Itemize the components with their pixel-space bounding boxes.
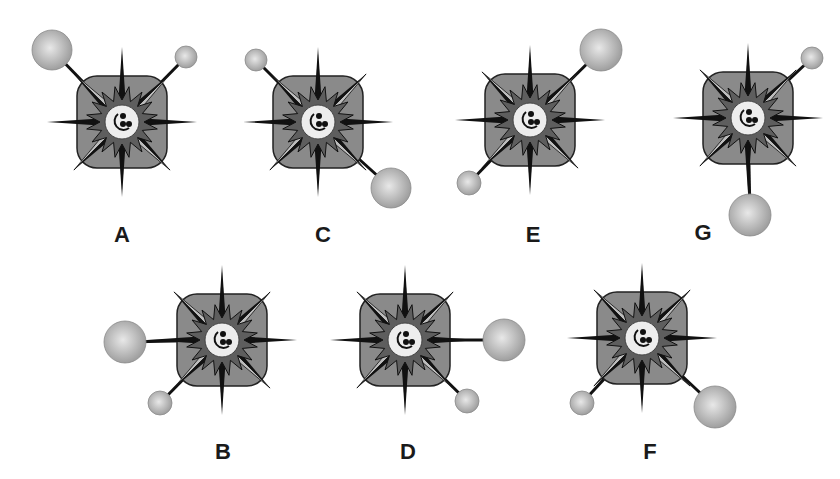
dot (126, 121, 132, 127)
figure-F (567, 263, 736, 428)
figure-label: F (643, 441, 656, 463)
figure-G (673, 43, 823, 236)
dot (746, 109, 752, 115)
large-ball (371, 168, 411, 208)
dot (534, 119, 540, 125)
dot (528, 119, 534, 125)
dot (316, 121, 322, 127)
dot (640, 337, 646, 343)
dot (226, 339, 232, 345)
figure-C (243, 47, 411, 208)
small-ball (570, 391, 594, 415)
large-ball (729, 194, 771, 236)
figure-label: E (526, 224, 541, 246)
dot (220, 339, 226, 345)
large-ball (580, 29, 622, 71)
dot (746, 117, 752, 123)
dot (120, 121, 126, 127)
dot (528, 111, 534, 117)
figure-E (455, 29, 622, 195)
figure-B (104, 265, 297, 415)
dot (403, 331, 409, 337)
figure-label: A (114, 224, 130, 246)
large-ball (694, 386, 736, 428)
dot (409, 339, 415, 345)
dot (120, 113, 126, 119)
dot (403, 339, 409, 345)
small-ball (148, 391, 172, 415)
figure-D (330, 265, 525, 415)
dot (322, 121, 328, 127)
dot (220, 331, 226, 337)
large-ball (483, 319, 525, 361)
large-ball (32, 30, 72, 70)
figure-A (32, 30, 197, 197)
dot (646, 337, 652, 343)
small-ball (455, 389, 479, 413)
dot (316, 113, 322, 119)
dot (640, 329, 646, 335)
large-ball (104, 321, 146, 363)
small-ball (457, 171, 481, 195)
figure-label: D (400, 441, 416, 463)
figure-label: C (315, 224, 331, 246)
dot (752, 117, 758, 123)
small-ball (175, 46, 197, 68)
figure-label: B (215, 441, 231, 463)
figure-label: G (694, 222, 711, 244)
small-ball (801, 47, 823, 69)
small-ball (245, 49, 267, 71)
